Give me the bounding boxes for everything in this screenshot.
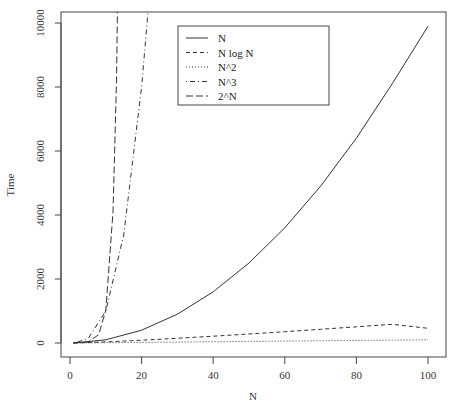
x-tick-label: 80 (351, 369, 363, 381)
y-axis-title: Time (4, 173, 16, 196)
legend-label: 2^N (218, 90, 237, 102)
series-line-dashed (74, 324, 428, 343)
x-tick-label: 60 (279, 369, 291, 381)
series-line-dotted (74, 340, 428, 343)
y-tick-label: 8000 (34, 76, 46, 99)
legend-label: N log N (218, 47, 254, 59)
x-tick-label: 0 (67, 369, 73, 381)
y-tick-label: 2000 (34, 268, 46, 291)
y-tick-label: 6000 (34, 140, 46, 163)
x-tick-label: 100 (420, 369, 437, 381)
x-tick-label: 40 (208, 369, 220, 381)
x-tick-label: 20 (136, 369, 148, 381)
x-axis: 020406080100 (67, 357, 437, 381)
x-axis-title: N (249, 390, 257, 402)
y-tick-label: 0 (34, 340, 46, 346)
legend: NN log NN^2N^32^N (178, 26, 329, 105)
series-line-longdash (74, 0, 121, 343)
y-tick-label: 10000 (34, 9, 46, 37)
chart: 0200040006000800010000 020406080100 N Ti… (0, 0, 449, 409)
y-axis: 0200040006000800010000 (34, 9, 61, 346)
y-tick-label: 4000 (34, 204, 46, 227)
legend-label: N^2 (218, 61, 237, 73)
legend-label: N (218, 32, 226, 44)
series-line-dotdash (74, 2, 149, 343)
legend-label: N^3 (218, 76, 237, 88)
